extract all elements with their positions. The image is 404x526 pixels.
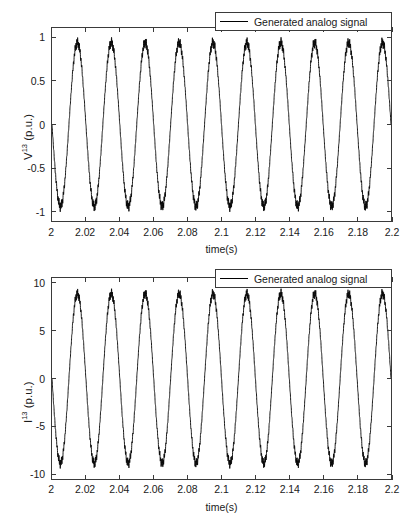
x-tick-mark-top: [85, 277, 86, 282]
x-tick-mark: [289, 475, 290, 480]
x-tick-label: 2.14: [280, 226, 300, 238]
y-axis-title-voltage: V13 (p.u.): [22, 114, 34, 160]
x-tick-label: 2.12: [246, 483, 266, 495]
x-tick-mark: [85, 217, 86, 222]
x-tick-label: 2.02: [75, 483, 95, 495]
y-tick-mark: [51, 80, 56, 81]
x-tick-label: 2.06: [143, 483, 163, 495]
x-tick-label: 2.2: [385, 483, 399, 495]
x-tick-mark-top: [51, 27, 52, 32]
y-tick-label: 10: [9, 277, 45, 289]
x-tick-label: 2.08: [177, 226, 197, 238]
x-tick-mark-top: [153, 27, 154, 32]
y-tick-mark-right: [387, 168, 392, 169]
figure-canvas: Generated analog signal 22.022.042.062.0…: [0, 0, 404, 526]
x-tick-mark: [153, 475, 154, 480]
x-tick-label: 2.16: [314, 483, 334, 495]
x-tick-mark: [289, 217, 290, 222]
x-tick-label: 2: [48, 226, 54, 238]
x-tick-mark: [255, 217, 256, 222]
plot-area-current: [51, 277, 392, 480]
y-tick-mark: [51, 378, 56, 379]
x-tick-mark: [51, 217, 52, 222]
y-tick-mark: [51, 168, 56, 169]
x-tick-mark: [392, 475, 393, 480]
chart-panel-current: Generated analog signal 22.022.042.062.0…: [0, 263, 404, 526]
legend-label-current: Generated analog signal: [254, 273, 367, 285]
y-tick-mark-right: [387, 80, 392, 81]
x-tick-mark-top: [187, 27, 188, 32]
y-tick-mark-right: [387, 37, 392, 38]
y-tick-label: 1: [9, 31, 45, 43]
x-axis-title-current: time(s): [51, 501, 392, 513]
waveform-path: [52, 289, 391, 469]
y-axis-title-current: I13 (p.u.): [22, 381, 34, 423]
y-tick-label: -1: [9, 206, 45, 218]
x-tick-mark: [323, 475, 324, 480]
y-tick-label: -10: [9, 468, 45, 480]
x-tick-mark: [119, 475, 120, 480]
x-tick-mark-top: [153, 277, 154, 282]
y-tick-label: 5: [9, 325, 45, 337]
x-tick-mark: [221, 475, 222, 480]
legend-voltage[interactable]: Generated analog signal: [215, 12, 392, 31]
x-tick-mark-top: [187, 277, 188, 282]
y-tick-mark: [51, 124, 56, 125]
x-tick-label: 2.1: [214, 483, 228, 495]
x-tick-label: 2: [48, 483, 54, 495]
y-tick-label: -0.5: [9, 162, 45, 174]
x-tick-label: 2.18: [348, 483, 368, 495]
x-tick-label: 2.1: [214, 226, 228, 238]
x-tick-label: 2.06: [143, 226, 163, 238]
legend-line-swatch-current: [220, 278, 248, 279]
x-tick-label: 2.2: [385, 226, 399, 238]
x-tick-label: 2.12: [246, 226, 266, 238]
y-tick-mark-right: [387, 378, 392, 379]
x-tick-label: 2.04: [109, 226, 129, 238]
x-tick-mark: [357, 217, 358, 222]
x-tick-mark: [187, 217, 188, 222]
waveform-path: [52, 37, 391, 212]
x-tick-mark: [323, 217, 324, 222]
legend-current[interactable]: Generated analog signal: [215, 269, 392, 288]
plot-area-voltage: [51, 27, 392, 222]
y-tick-mark-right: [387, 426, 392, 427]
x-tick-mark: [392, 217, 393, 222]
chart-panel-voltage: Generated analog signal 22.022.042.062.0…: [0, 0, 404, 263]
x-tick-label: 2.14: [280, 483, 300, 495]
x-tick-label: 2.18: [348, 226, 368, 238]
x-tick-mark: [85, 475, 86, 480]
legend-line-swatch-voltage: [220, 21, 248, 22]
x-tick-mark: [51, 475, 52, 480]
y-tick-mark: [51, 330, 56, 331]
y-tick-mark-right: [387, 474, 392, 475]
y-tick-mark-right: [387, 330, 392, 331]
y-tick-mark-right: [387, 211, 392, 212]
x-tick-mark-top: [119, 277, 120, 282]
x-tick-mark-top: [119, 27, 120, 32]
signal-curve-current: [52, 278, 391, 479]
x-tick-mark: [187, 475, 188, 480]
x-tick-label: 2.04: [109, 483, 129, 495]
y-tick-mark: [51, 426, 56, 427]
x-tick-mark: [255, 475, 256, 480]
y-tick-mark: [51, 37, 56, 38]
x-tick-label: 2.02: [75, 226, 95, 238]
x-tick-mark-top: [85, 27, 86, 32]
legend-label-voltage: Generated analog signal: [254, 16, 367, 28]
x-tick-mark: [357, 475, 358, 480]
x-tick-label: 2.08: [177, 483, 197, 495]
y-tick-mark: [51, 474, 56, 475]
x-tick-label: 2.16: [314, 226, 334, 238]
y-tick-mark: [51, 211, 56, 212]
y-tick-mark-right: [387, 124, 392, 125]
x-axis-title-voltage: time(s): [51, 243, 392, 255]
signal-curve-voltage: [52, 28, 391, 221]
x-tick-mark: [119, 217, 120, 222]
y-tick-mark: [51, 282, 56, 283]
x-tick-mark: [221, 217, 222, 222]
x-tick-mark: [153, 217, 154, 222]
y-tick-label: 0.5: [9, 75, 45, 87]
